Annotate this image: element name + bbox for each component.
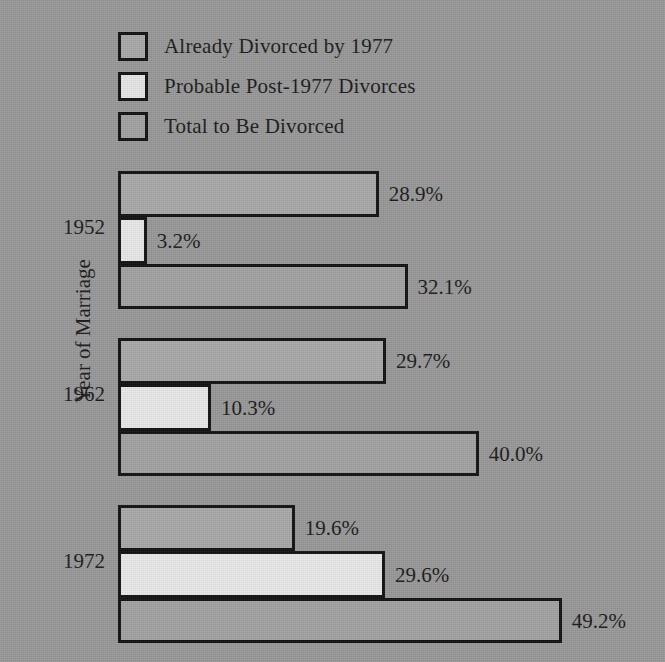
bar-label-1952-probable-post-1977: 3.2% xyxy=(147,228,201,253)
y-tick-label-1962: 1962 xyxy=(56,381,112,406)
bar-group-1952: 1952 28.9% 3.2% 32.1% xyxy=(0,160,665,293)
legend-label-probable-post-1977: Probable Post-1977 Divorces xyxy=(164,74,416,99)
legend-label-total-to-be-divorced: Total to Be Divorced xyxy=(164,114,344,139)
legend-item-probable-post-1977: Probable Post-1977 Divorces xyxy=(118,66,538,106)
bar-1962-total-to-be-divorced xyxy=(118,431,479,476)
bar-label-1962-total-to-be-divorced: 40.0% xyxy=(479,441,543,466)
legend-swatch-icon-probable-post-1977 xyxy=(118,72,148,101)
bar-label-1962-probable-post-1977: 10.3% xyxy=(211,395,275,420)
bar-1962-already-divorced xyxy=(118,338,386,384)
bar-label-1952-already-divorced: 28.9% xyxy=(379,182,443,207)
bar-label-1952-total-to-be-divorced: 32.1% xyxy=(408,274,472,299)
bar-1952-total-to-be-divorced xyxy=(118,264,408,309)
bar-label-1972-probable-post-1977: 29.6% xyxy=(385,562,449,587)
legend-label-already-divorced: Already Divorced by 1977 xyxy=(164,34,393,59)
bar-label-1972-already-divorced: 19.6% xyxy=(295,516,359,541)
bar-label-1972-total-to-be-divorced: 49.2% xyxy=(562,608,626,633)
bar-group-1972: 1972 19.6% 29.6% 49.2% xyxy=(0,494,665,627)
bar-1972-total-to-be-divorced xyxy=(118,598,562,643)
bar-1972-already-divorced xyxy=(118,505,295,551)
legend-item-already-divorced: Already Divorced by 1977 xyxy=(118,26,538,66)
bar-1962-probable-post-1977 xyxy=(118,384,211,431)
bar-1952-probable-post-1977 xyxy=(118,217,147,264)
legend-item-total-to-be-divorced: Total to Be Divorced xyxy=(118,106,538,146)
bar-label-1962-already-divorced: 29.7% xyxy=(386,349,450,374)
y-tick-label-1972: 1972 xyxy=(56,548,112,573)
chart-figure: Already Divorced by 1977 Probable Post-1… xyxy=(0,0,665,662)
bar-1972-probable-post-1977 xyxy=(118,551,385,598)
y-tick-label-1952: 1952 xyxy=(56,214,112,239)
bar-group-1962: 1962 29.7% 10.3% 40.0% xyxy=(0,327,665,460)
legend-swatch-icon-total-to-be-divorced xyxy=(118,112,148,141)
legend-swatch-icon-already-divorced xyxy=(118,32,148,61)
chart-legend: Already Divorced by 1977 Probable Post-1… xyxy=(118,26,538,146)
bar-1952-already-divorced xyxy=(118,171,379,217)
plot-area: 1952 28.9% 3.2% 32.1% 1962 29.7% xyxy=(0,160,665,650)
